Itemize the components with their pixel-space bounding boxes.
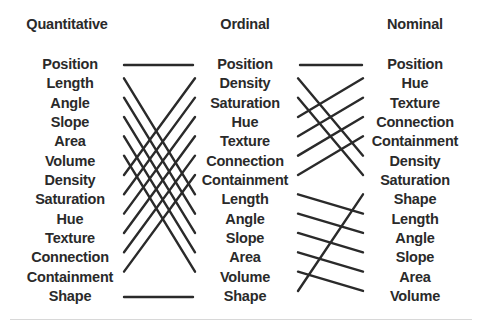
connectors-quantitative-to-ordinal — [124, 65, 195, 297]
connector-line — [298, 117, 363, 156]
connector-line — [124, 156, 195, 253]
connector-lines — [0, 0, 480, 327]
connector-line — [124, 117, 195, 214]
connector-line — [124, 78, 195, 175]
connector-line — [124, 98, 195, 195]
connector-line — [124, 136, 195, 233]
connector-line — [124, 175, 195, 272]
bottom-divider — [10, 319, 472, 320]
connector-line — [298, 78, 363, 117]
connector-line — [298, 194, 363, 291]
connector-line — [298, 98, 363, 137]
connector-line — [298, 252, 363, 271]
connector-line — [298, 136, 363, 175]
connectors-ordinal-to-nominal — [298, 65, 363, 291]
connector-line — [298, 214, 363, 233]
